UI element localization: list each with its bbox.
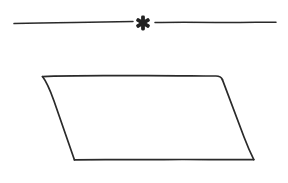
section-divider-ornament: [14, 16, 276, 31]
scanned-page: Scanned book page fragment: a section-di…: [0, 0, 288, 183]
asterisk-ornament-icon: [136, 16, 151, 31]
figure-canvas: [0, 0, 288, 183]
parallelogram-interior: [42, 76, 254, 160]
divider-left-rule: [14, 22, 133, 24]
ink-layer: [14, 16, 276, 160]
parallelogram-figure: [42, 76, 254, 160]
